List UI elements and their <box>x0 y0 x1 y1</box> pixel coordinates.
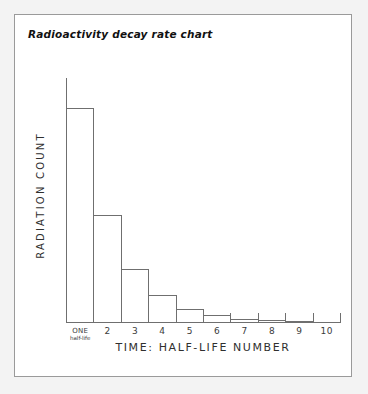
x-axis-title: TIME: HALF-LIFE NUMBER <box>66 341 340 354</box>
bars-group <box>67 109 341 323</box>
x-tick-label: 4 <box>159 326 165 336</box>
bar <box>94 216 121 323</box>
x-tick-labels-group: ONEhalf-life2345678910 <box>70 326 333 341</box>
x-tick-label: 6 <box>214 326 220 336</box>
x-tick-sublabel: half-life <box>70 335 91 341</box>
bar <box>67 109 94 323</box>
x-tick-label: 2 <box>104 326 110 336</box>
chart-page: Radioactivity decay rate chart ONEhalf-l… <box>0 0 368 394</box>
bar <box>121 269 148 323</box>
bar <box>149 296 176 323</box>
x-tick-label: 8 <box>269 326 275 336</box>
x-tick-label: ONE <box>72 327 88 335</box>
axes-group <box>67 78 342 323</box>
decay-chart-plot: ONEhalf-life2345678910 <box>0 0 368 394</box>
y-axis-title: RADIATION COUNT <box>35 126 46 266</box>
x-tick-label: 7 <box>241 326 247 336</box>
bar <box>176 309 203 322</box>
x-ticks-group <box>94 313 341 323</box>
x-tick-label: 5 <box>187 326 193 336</box>
x-tick-label: 9 <box>296 326 302 336</box>
bar <box>204 316 231 323</box>
x-tick-label: 3 <box>132 326 138 336</box>
x-tick-label: 10 <box>321 326 333 336</box>
